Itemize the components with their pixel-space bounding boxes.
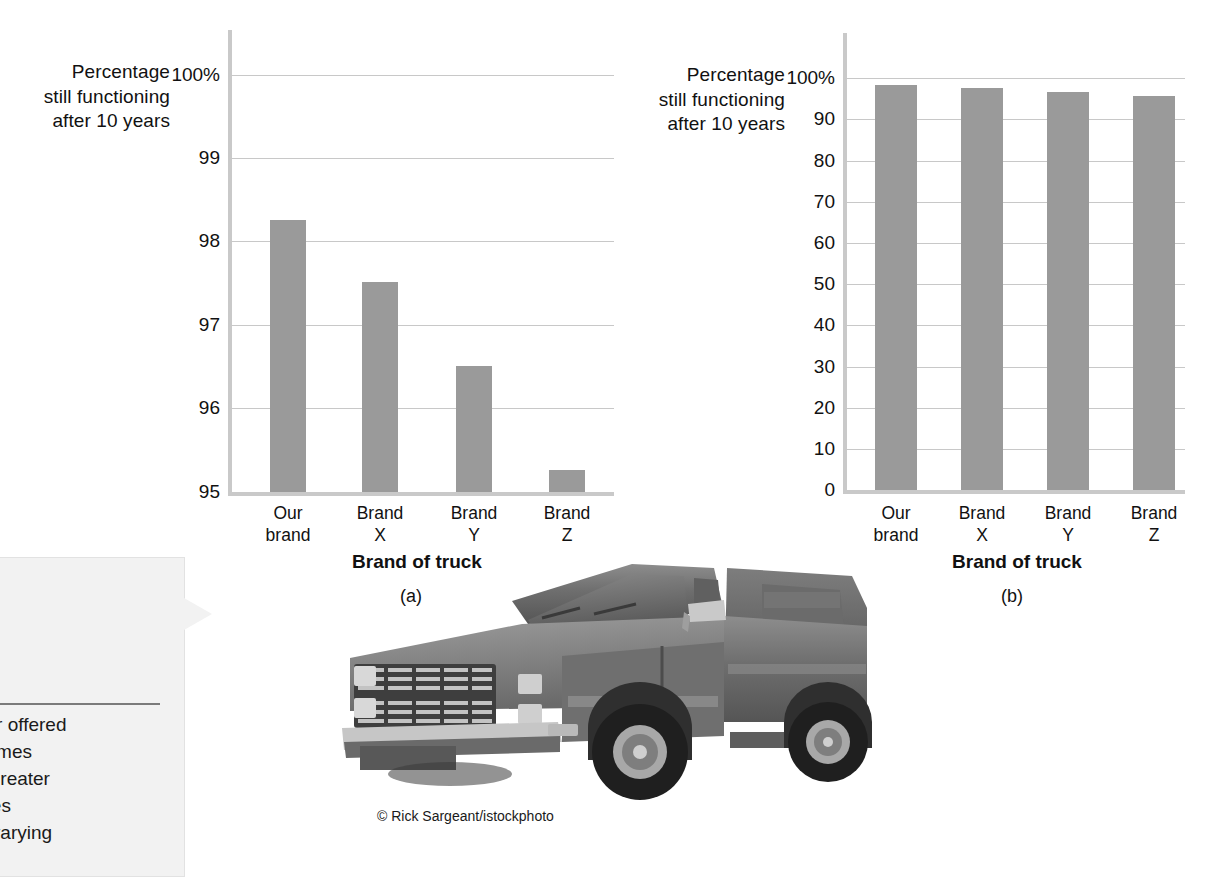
panel-b-ytick-10: 10 <box>740 438 835 460</box>
panel-b-ytick-50: 50 <box>740 273 835 295</box>
panel-b-x-axis-line <box>843 490 1185 494</box>
xtick-line-2: Y <box>1045 525 1092 547</box>
panel-b-ytick-0: 0 <box>740 479 835 501</box>
panel-a-xtick-brand-z: Brand Z <box>544 503 591 547</box>
panel-a-ytick-95: 95 <box>120 481 220 503</box>
panel-b-caption: (b) <box>1001 586 1023 607</box>
panel-a-ytick-99: 99 <box>120 147 220 169</box>
bar-brand-y <box>1047 92 1089 490</box>
bar-our-brand <box>270 220 306 492</box>
gridline-100 <box>845 78 1185 79</box>
xtick-line-1: Brand <box>959 503 1006 525</box>
callout-line-5: ut the varying <box>0 820 188 847</box>
callout-divider <box>0 703 160 705</box>
callout-text: facturer offered and names much greater … <box>0 712 188 847</box>
panel-b-ytick-40: 40 <box>740 314 835 336</box>
callout-line-2: and names <box>0 739 188 766</box>
panel-b-ytick-20: 20 <box>740 397 835 419</box>
panel-a-ytick-100: 100% <box>120 64 220 86</box>
bar-brand-y <box>456 366 492 492</box>
panel-a-xtick-brand-y: Brand Y <box>451 503 498 547</box>
panel-b-xtick-brand-y: Brand Y <box>1045 503 1092 547</box>
panel-a-ytick-98: 98 <box>120 230 220 252</box>
pickup-truck-photo <box>332 546 872 818</box>
truck-illustration <box>332 546 872 818</box>
panel-a-ytick-96: 96 <box>120 397 220 419</box>
panel-b-xtick-brand-z: Brand Z <box>1131 503 1178 547</box>
xtick-line-2: Z <box>1131 525 1178 547</box>
panel-a-xtick-our-brand: Our brand <box>266 503 311 547</box>
callout-pointer <box>184 598 212 630</box>
panel-b-ytick-60: 60 <box>740 232 835 254</box>
gridline-99 <box>230 158 614 159</box>
xtick-line-1: Our <box>874 503 919 525</box>
panel-a-ytick-97: 97 <box>120 314 220 336</box>
panel-b-xtick-our-brand: Our brand <box>874 503 919 547</box>
bar-brand-x <box>362 282 398 492</box>
bar-our-brand <box>875 85 917 490</box>
xtick-line-1: Brand <box>1045 503 1092 525</box>
xtick-line-1: Brand <box>357 503 404 525</box>
xtick-line-2: Z <box>544 525 591 547</box>
panel-b-ytick-100: 100% <box>740 67 835 89</box>
panel-a-xtick-brand-x: Brand X <box>357 503 404 547</box>
panel-b-ytick-80: 80 <box>740 150 835 172</box>
panel-b-plot-area <box>843 33 1188 498</box>
xtick-line-2: brand <box>874 525 919 547</box>
xtick-line-1: Our <box>266 503 311 525</box>
bar-brand-z <box>1133 96 1175 490</box>
panel-b-ytick-70: 70 <box>740 191 835 213</box>
panel-b-ytick-90: 90 <box>740 108 835 130</box>
xtick-line-2: X <box>357 525 404 547</box>
y-axis-title-line-3: after 10 years <box>0 109 170 134</box>
xtick-line-2: X <box>959 525 1006 547</box>
panel-a-x-axis-line <box>228 492 614 496</box>
gridline-100 <box>230 75 614 76</box>
xtick-line-2: Y <box>451 525 498 547</box>
callout-line-4: hat does <box>0 793 188 820</box>
panel-b-xtick-brand-x: Brand X <box>959 503 1006 547</box>
xtick-line-1: Brand <box>451 503 498 525</box>
panel-a-plot-area <box>228 30 618 500</box>
y-axis-title-line-2: still functioning <box>0 85 170 110</box>
bar-brand-x <box>961 88 1003 490</box>
callout-line-3: much greater <box>0 766 188 793</box>
panel-b-ytick-30: 30 <box>740 356 835 378</box>
xtick-line-2: brand <box>266 525 311 547</box>
bar-brand-z <box>549 470 585 492</box>
panel-b-x-axis-title: Brand of truck <box>952 551 1082 573</box>
photo-credit: © Rick Sargeant/istockphoto <box>377 808 554 824</box>
panel-a-y-axis-line <box>228 30 232 494</box>
xtick-line-1: Brand <box>1131 503 1178 525</box>
xtick-line-1: Brand <box>544 503 591 525</box>
callout-line-1: facturer offered <box>0 712 188 739</box>
panel-b-y-axis-line <box>843 33 847 492</box>
